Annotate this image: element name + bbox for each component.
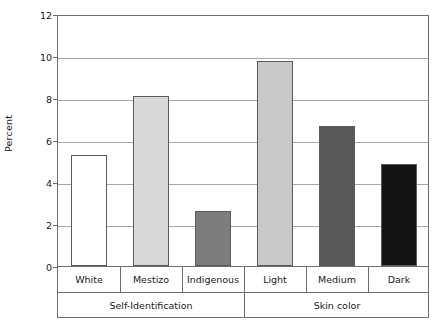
gridline bbox=[58, 100, 428, 101]
category-label: Light bbox=[244, 267, 306, 292]
category-label: Mestizo bbox=[120, 267, 182, 292]
y-axis-tick-label: 4 bbox=[12, 178, 52, 189]
category-label: Indigenous bbox=[182, 267, 244, 292]
bar bbox=[133, 96, 169, 266]
y-axis-tick-label: 12 bbox=[12, 10, 52, 21]
bar bbox=[257, 61, 293, 266]
category-label-band: WhiteMestizoIndigenousLightMediumDark bbox=[57, 267, 429, 293]
y-axis-tick-label: 6 bbox=[12, 136, 52, 147]
y-axis-tick-label: 2 bbox=[12, 220, 52, 231]
category-separator bbox=[244, 267, 245, 292]
gridline bbox=[58, 226, 428, 227]
bar bbox=[195, 211, 231, 266]
bar bbox=[71, 155, 107, 266]
category-separator bbox=[120, 267, 121, 292]
plot-area bbox=[57, 15, 429, 267]
bar bbox=[381, 164, 417, 266]
gridline bbox=[58, 184, 428, 185]
bar-chart: Percent 024681012 WhiteMestizoIndigenous… bbox=[0, 0, 437, 323]
category-label: Dark bbox=[368, 267, 430, 292]
group-separator bbox=[244, 293, 245, 317]
gridline bbox=[58, 58, 428, 59]
category-label: White bbox=[58, 267, 120, 292]
y-axis-tick-label: 0 bbox=[12, 262, 52, 273]
y-axis-tick-label: 10 bbox=[12, 52, 52, 63]
y-axis-tick-label: 8 bbox=[12, 94, 52, 105]
group-label: Self-Identification bbox=[58, 293, 244, 317]
bar bbox=[319, 126, 355, 266]
gridline bbox=[58, 142, 428, 143]
category-separator bbox=[368, 267, 369, 292]
category-label: Medium bbox=[306, 267, 368, 292]
y-axis-tick-labels: 024681012 bbox=[8, 15, 52, 267]
group-label: Skin color bbox=[244, 293, 430, 317]
group-label-band: Self-IdentificationSkin color bbox=[57, 293, 429, 318]
category-separator bbox=[182, 267, 183, 292]
category-separator bbox=[306, 267, 307, 292]
